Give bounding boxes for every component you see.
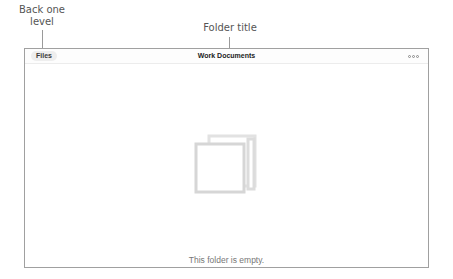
more-options-icon[interactable] xyxy=(408,54,420,58)
callout-back-leader xyxy=(42,30,43,48)
callout-back-label: Back one level xyxy=(18,4,66,28)
navigation-bar: Files Work Documents xyxy=(25,49,428,64)
folder-title: Work Documents xyxy=(25,51,428,61)
device-screen: Files Work Documents This folder is empt… xyxy=(24,48,429,268)
empty-folder-message: This folder is empty. xyxy=(25,255,428,265)
callout-title-leader xyxy=(229,37,230,48)
callout-title-label: Folder title xyxy=(190,22,270,34)
empty-folder-icon xyxy=(193,130,263,196)
